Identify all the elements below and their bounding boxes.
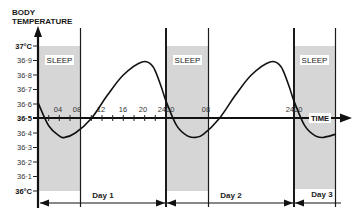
day-spans: Day 1 Day 2 Day 3 — [40, 190, 341, 207]
body-temperature-diagram: BODY TEMPERATURE SLEEP SLEEP SLEEP — [0, 0, 353, 214]
x-tick-08-day2: 08 — [202, 105, 210, 114]
y-tick-36-3: 36·3 — [17, 143, 32, 152]
y-axis-title-line1: BODY — [12, 8, 36, 17]
sleep-labels: SLEEP SLEEP SLEEP — [45, 55, 329, 65]
y-tick-36-6: 36·6 — [17, 100, 32, 109]
x-tick-2400-day2: 2400 — [286, 105, 303, 114]
day2-right-arrow-icon — [284, 200, 293, 207]
y-tick-36-8: 36·8 — [17, 71, 32, 80]
x-tick-16: 16 — [119, 105, 127, 114]
time-axis-arrow-icon — [340, 114, 352, 123]
y-tick-36-1: 36·1 — [17, 172, 32, 181]
y-tick-36-9: 36·9 — [17, 56, 32, 65]
day3-left-arrow-icon — [295, 200, 304, 207]
sleep-label-3: SLEEP — [302, 56, 328, 65]
y-axis-arrow-icon — [34, 26, 42, 37]
y-tick-36: 36°C — [15, 187, 32, 196]
day-label-2: Day 2 — [220, 191, 242, 200]
sleep-label-1: SLEEP — [47, 56, 73, 65]
y-axis: 37°C 36·9 36·8 36·7 36·6 36·5 36·4 36·3 … — [15, 26, 42, 208]
day2-left-arrow-icon — [167, 200, 176, 207]
y-tick-36-2: 36·2 — [17, 158, 32, 167]
y-axis-title-line2: TEMPERATURE — [12, 17, 73, 26]
day-label-3: Day 3 — [311, 190, 333, 199]
time-axis-label: TIME — [311, 114, 329, 123]
y-tick-37: 37°C — [15, 42, 32, 51]
x-tick-20: 20 — [139, 105, 147, 114]
day1-right-arrow-icon — [156, 200, 165, 207]
x-tick-08: 08 — [73, 105, 81, 114]
y-tick-36-7: 36·7 — [17, 85, 32, 94]
y-tick-36-5: 36·5 — [17, 114, 32, 123]
day1-left-arrow-icon — [40, 200, 49, 207]
x-tick-04: 04 — [54, 105, 62, 114]
x-tick-2400-day1: 2400 — [158, 105, 175, 114]
sleep-label-2: SLEEP — [175, 56, 201, 65]
day-label-1: Day 1 — [92, 191, 114, 200]
y-tick-36-4: 36·4 — [17, 129, 32, 138]
